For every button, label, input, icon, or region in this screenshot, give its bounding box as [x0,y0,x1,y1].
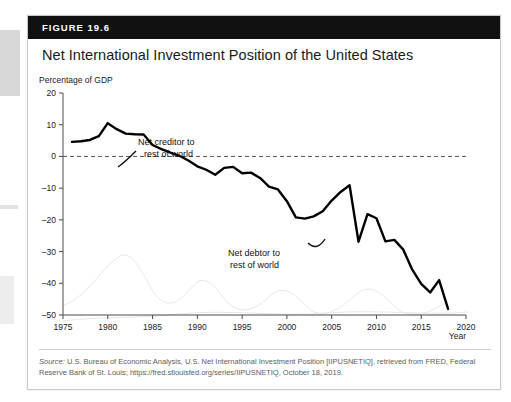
x-tick-label: 1975 [54,322,73,332]
annotation-debtor-leader [308,239,325,246]
y-tick-label: –20 [42,215,56,225]
annotation-creditor-line1: Net creditor to [138,137,195,147]
y-tick-label: –30 [42,247,56,257]
x-tick-label: 2005 [322,322,341,332]
y-tick-label: 0 [51,151,56,161]
x-tick-label: 1990 [188,322,207,332]
page-bleed-artifact [0,0,30,402]
annotation-creditor-line2: rest of world [144,149,193,159]
y-tick-label: 10 [47,120,57,130]
annotation-debtor-line1: Net debtor to [228,248,280,258]
y-tick-label: –40 [42,278,56,288]
y-tick-label: 20 [47,88,57,98]
bleed-mark-bottom [0,276,14,324]
source-text: U.S. Bureau of Economic Analysis, U.S. N… [39,357,475,377]
line-chart: Percentage of GDP 20100–10–20–30–40–50 1… [28,71,502,339]
data-series-line [72,123,448,309]
source-label: Source: [39,357,65,366]
x-tick-label: 1995 [233,322,252,332]
x-tick-label: 2000 [277,322,296,332]
annotation-net-creditor: Net creditor to rest of world [138,137,195,159]
y-axis: 20100–10–20–30–40–50 [42,88,63,320]
y-tick-label: –50 [42,310,56,320]
x-tick-label: 1985 [143,322,162,332]
y-tick-group: 20100–10–20–30–40–50 [42,88,63,320]
chart-area: Percentage of GDP 20100–10–20–30–40–50 1… [28,71,502,339]
x-tick-label: 1980 [98,322,117,332]
y-axis-title: Percentage of GDP [39,75,113,85]
x-axis-title: Year [449,331,466,339]
source-note: Source: U.S. Bureau of Economic Analysis… [39,357,491,378]
source-divider [39,349,491,350]
figure-title: Net International Investment Position of… [42,47,413,63]
figure-number-label: FIGURE 19.6 [42,22,110,33]
bleed-mark-mid [0,205,18,209]
figure-card: FIGURE 19.6 Net International Investment… [27,15,501,390]
annotation-debtor-line2: rest of world [230,260,279,270]
annotation-creditor-leader [118,151,136,167]
x-tick-label: 2015 [412,322,431,332]
x-tick-label: 2010 [367,322,386,332]
bleed-mark-top [0,30,20,96]
y-tick-label: –10 [42,183,56,193]
annotation-net-debtor: Net debtor to rest of world [228,248,280,270]
